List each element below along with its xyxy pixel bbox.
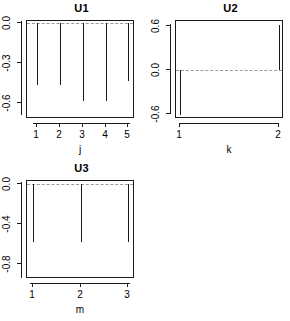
- y-tick: [166, 113, 170, 114]
- y-tick-label: -0.8: [2, 250, 12, 278]
- zero-reference-line: [27, 23, 133, 24]
- x-tick: [82, 123, 83, 127]
- spike-bar: [279, 25, 280, 70]
- x-tick: [59, 123, 60, 127]
- x-tick-label: 1: [22, 290, 42, 300]
- y-tick-label: -0.6: [2, 89, 12, 117]
- x-tick: [105, 123, 106, 127]
- spike-bar: [60, 23, 61, 85]
- y-tick-label: -0.3: [2, 49, 12, 77]
- spike-bar: [128, 23, 129, 81]
- x-tick-label: 2: [49, 130, 69, 140]
- x-tick-label: 2: [70, 290, 90, 300]
- spike-bar: [83, 23, 84, 101]
- y-tick-label: -0.6: [151, 100, 161, 128]
- y-tick: [17, 183, 21, 184]
- panel-u3: U3 0.0 -0.4 -0.8 1 2 3 m: [0, 160, 145, 320]
- x-tick-label: 1: [169, 130, 189, 140]
- panel-u3-y-axis: [21, 182, 22, 278]
- panel-empty: [145, 160, 290, 320]
- x-tick-label: 5: [117, 130, 137, 140]
- x-tick: [80, 283, 81, 287]
- panel-u1-plot-area: [26, 20, 134, 118]
- x-tick: [36, 123, 37, 127]
- y-tick: [17, 263, 21, 264]
- y-tick-label: -0.4: [2, 210, 12, 238]
- x-tick: [127, 283, 128, 287]
- x-tick: [179, 123, 180, 127]
- y-tick-label: 0.0: [2, 9, 12, 37]
- y-tick-label: 0.6: [151, 12, 161, 40]
- x-tick-label: 3: [72, 130, 92, 140]
- y-tick: [17, 102, 21, 103]
- panel-u1-x-axis-title: j: [26, 145, 134, 155]
- y-tick: [17, 62, 21, 63]
- panel-u1-title: U1: [26, 2, 137, 15]
- y-tick: [166, 69, 170, 70]
- x-tick-label: 2: [268, 130, 288, 140]
- x-tick-label: 4: [95, 130, 115, 140]
- x-tick-label: 1: [26, 130, 46, 140]
- spike-bar: [128, 184, 129, 242]
- spike-bar: [180, 70, 181, 115]
- panel-u3-x-axis-title: m: [26, 305, 134, 315]
- y-tick: [166, 25, 170, 26]
- x-tick-label: 3: [117, 290, 137, 300]
- y-tick: [17, 223, 21, 224]
- panel-u2-title: U2: [175, 2, 286, 15]
- x-tick: [32, 283, 33, 287]
- panel-u2-x-axis-title: k: [175, 145, 283, 155]
- zero-reference-line: [27, 184, 133, 185]
- spike-bar: [106, 23, 107, 101]
- panel-u2: U2 0.6 0.0 -0.6 1 2 k: [145, 0, 290, 160]
- x-tick: [127, 123, 128, 127]
- panel-u3-plot-area: [26, 180, 134, 278]
- spike-bar: [33, 184, 34, 242]
- panel-u3-title: U3: [26, 162, 137, 175]
- x-tick: [278, 123, 279, 127]
- panel-u1-y-axis: [21, 21, 22, 115]
- panel-u2-y-axis: [170, 24, 171, 114]
- panel-u2-x-axis: [179, 123, 279, 124]
- y-tick-label: 0.0: [151, 56, 161, 84]
- figure-grid: U1 0.0 -0.3 -0.6 1 2 3 4 5 j: [0, 0, 290, 321]
- spike-bar: [37, 23, 38, 85]
- panel-u2-plot-area: [175, 20, 283, 118]
- panel-u1: U1 0.0 -0.3 -0.6 1 2 3 4 5 j: [0, 0, 145, 160]
- zero-reference-line: [176, 70, 282, 71]
- y-tick: [17, 22, 21, 23]
- y-tick-label: 0.0: [2, 170, 12, 198]
- spike-bar: [81, 184, 82, 242]
